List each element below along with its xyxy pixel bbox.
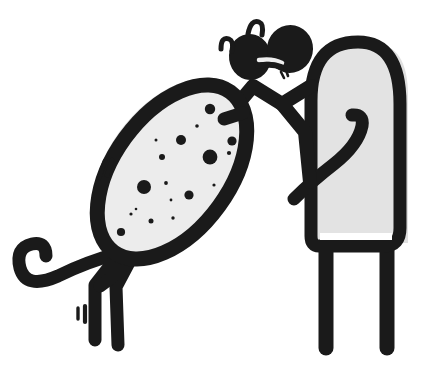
spot (184, 190, 193, 199)
spot (176, 135, 186, 145)
creature-muzzle-stroke (258, 65, 281, 67)
spot (195, 124, 199, 128)
spot (227, 136, 236, 145)
figure-inner-base-highlight (320, 233, 392, 240)
spot (149, 219, 154, 224)
cartoon-illustration (0, 0, 435, 378)
spot (203, 150, 218, 165)
spot (205, 104, 215, 114)
creature-neck-stub (224, 113, 243, 119)
spot (170, 199, 173, 202)
spot (135, 208, 138, 211)
spot (155, 139, 158, 142)
spot (171, 216, 174, 219)
illustration-canvas (0, 0, 435, 378)
spot (159, 154, 165, 160)
spot (117, 228, 125, 236)
spot (164, 181, 168, 185)
spot (227, 151, 231, 155)
spot (212, 183, 215, 186)
spot (129, 212, 132, 215)
spot (137, 180, 151, 194)
